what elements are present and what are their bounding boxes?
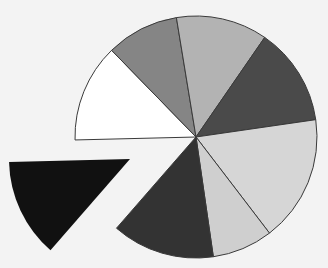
pie-slice-exploded [9, 159, 130, 250]
pie-chart [0, 0, 328, 268]
pie-chart-canvas [0, 0, 328, 268]
pie-slice [116, 137, 213, 258]
